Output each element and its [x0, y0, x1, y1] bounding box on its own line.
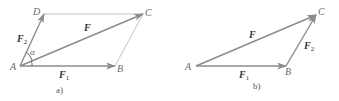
vector-label-f-b: F — [248, 29, 256, 40]
angle-arc-lower — [32, 61, 33, 66]
vector-label-f1: F1 — [58, 69, 70, 82]
vector-label-f1-b: F1 — [238, 69, 250, 82]
angle-label-alpha: α — [30, 47, 35, 57]
vector-f2-b — [286, 15, 316, 66]
vector-f-b — [196, 15, 316, 66]
vector-label-f2: F2 — [16, 33, 28, 46]
point-label-d: D — [32, 6, 41, 17]
point-label-a: A — [9, 61, 17, 72]
edge-b-c — [115, 14, 143, 66]
vector-label-f: F — [83, 22, 91, 33]
diagram-b-triangle: A B C F F2 F1 b) — [184, 6, 325, 91]
point-label-b-b: B — [285, 66, 291, 77]
point-label-c-b: C — [318, 6, 325, 17]
vector-addition-figure: D C A B F2 F α F1 a) A B C F F2 F1 b) — [0, 0, 339, 101]
vector-label-f2-b: F2 — [303, 40, 315, 53]
point-label-c: C — [145, 7, 152, 18]
diagram-a-parallelogram: D C A B F2 F α F1 a) — [9, 6, 152, 95]
point-label-a-b: A — [184, 61, 192, 72]
vector-f-a — [20, 14, 143, 66]
caption-a: a) — [56, 85, 63, 95]
caption-b: b) — [253, 81, 261, 91]
point-label-b: B — [117, 63, 123, 74]
